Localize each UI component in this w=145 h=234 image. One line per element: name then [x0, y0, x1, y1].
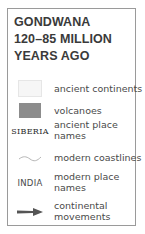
title-line-3: YEARS AGO [14, 48, 112, 65]
modern-place-name-sample: INDIA [14, 176, 46, 190]
legend-label: modern place names [54, 171, 119, 193]
legend-label: modern coastlines [54, 152, 141, 163]
legend-label: ancient continents [54, 83, 142, 94]
title-line-1: GONDWANA [14, 14, 112, 31]
legend-label: ancient place names [54, 119, 118, 141]
title-line-2: 120–85 MILLION [14, 31, 112, 48]
legend-label: volcanoes [54, 105, 102, 116]
legend-item-ancient-continents: ancient continents [0, 78, 145, 98]
wavy-coastline-icon [14, 152, 46, 164]
ancient-continents-swatch-icon [14, 80, 46, 97]
arrow-icon [14, 206, 46, 218]
ancient-place-name-sample: SIBERIA [12, 124, 48, 138]
legend-item-modern-place-names: INDIA modern place names [0, 170, 145, 198]
legend-title: GONDWANA 120–85 MILLION YEARS AGO [14, 14, 112, 65]
legend-item-ancient-place-names: SIBERIA ancient place names [0, 118, 145, 146]
volcanoes-swatch-icon [14, 102, 46, 119]
legend-item-modern-coastlines: modern coastlines [0, 150, 145, 170]
legend-item-continental-movements: continental movements [0, 199, 145, 227]
legend-label: continental movements [54, 200, 110, 222]
